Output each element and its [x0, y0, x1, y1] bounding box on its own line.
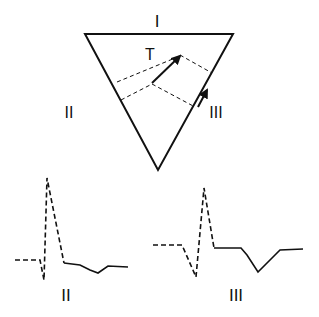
label-lead-II: II — [65, 104, 74, 121]
label-vector-T: T — [145, 46, 155, 63]
lead-III-projection-arrow-icon — [198, 90, 207, 107]
einthoven-triangle-diagram: I T II III II III — [0, 0, 319, 317]
t-vector-arrow-icon — [152, 56, 180, 83]
waveform-lead-II — [15, 178, 128, 280]
waveform-label-III: III — [229, 286, 243, 305]
waveform-label-II: II — [61, 286, 70, 305]
waveform-lead-III — [153, 188, 303, 277]
label-lead-III: III — [209, 104, 222, 121]
label-lead-I: I — [155, 12, 160, 31]
triangle — [85, 34, 233, 170]
